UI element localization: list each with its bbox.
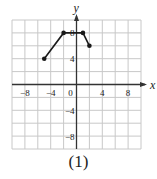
x-tick-label: 4 [100,88,105,98]
y-axis-label: y [73,1,80,15]
x-axis-arrow-icon [140,82,147,87]
y-tick-label: 4 [70,54,75,64]
graph: xy−8−404884−4−8 [0,0,157,152]
x-tick-label: −4 [46,88,56,98]
data-point [81,31,86,36]
y-tick-label: −8 [65,132,75,142]
x-tick-label: 0 [68,88,73,98]
x-axis-label: x [149,78,156,92]
x-tick-label: 8 [126,88,131,98]
data-point [61,31,66,36]
x-tick-label: −8 [20,88,30,98]
y-axis-arrow-icon [74,14,79,21]
figure-caption: (1) [0,152,157,172]
y-tick-label: −4 [65,106,75,116]
data-point [42,56,47,61]
data-point [87,44,92,49]
